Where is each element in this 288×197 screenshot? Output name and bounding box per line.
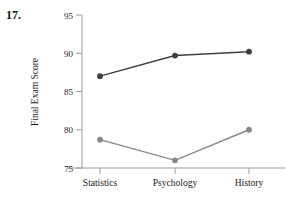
series-line-lower-series <box>100 130 249 161</box>
line-chart-plot: 95 90 85 80 75 Final Exam Score Statisti… <box>0 0 288 197</box>
x-category-label-psychology: Psychology <box>153 178 198 188</box>
y-axis-title: Final Exam Score <box>30 58 40 126</box>
y-tick-label-85: 85 <box>64 87 74 97</box>
data-point-marker <box>172 157 178 163</box>
data-point-marker <box>97 137 103 143</box>
x-category-label-statistics: Statistics <box>83 178 118 188</box>
data-point-marker <box>172 53 178 59</box>
data-point-marker <box>246 127 252 133</box>
data-point-marker <box>246 49 252 55</box>
chart-figure: 17. 95 90 85 80 75 Final Exam Score Stat… <box>0 0 288 197</box>
y-tick-label-95: 95 <box>64 11 74 21</box>
y-tick-label-90: 90 <box>64 49 74 59</box>
y-tick-label-75: 75 <box>64 164 74 174</box>
y-tick-label-80: 80 <box>64 125 74 135</box>
data-point-marker <box>97 73 103 79</box>
series-layer <box>97 49 252 163</box>
x-category-label-history: History <box>235 178 264 188</box>
